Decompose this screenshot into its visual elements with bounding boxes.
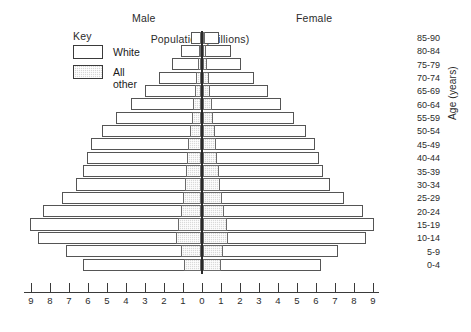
bar-male-total xyxy=(159,72,201,84)
bar-male-all-other xyxy=(183,192,201,204)
x-axis-tick-label: 9 xyxy=(370,295,375,306)
bar-female-total xyxy=(203,205,363,217)
bar-female-all-other xyxy=(203,192,222,204)
bar-female-all-other xyxy=(203,125,215,137)
bar-female-total xyxy=(203,125,306,137)
bar-male-all-other xyxy=(190,125,201,137)
age-label: 45-49 xyxy=(417,140,440,150)
age-label: 70-74 xyxy=(417,73,440,83)
age-label: 60-64 xyxy=(417,100,440,110)
bar-female-all-other xyxy=(203,259,221,271)
x-axis-tick xyxy=(183,283,184,292)
age-label: 20-24 xyxy=(417,207,440,217)
female-column-heading: Female xyxy=(296,12,332,24)
bar-male-total xyxy=(43,205,201,217)
bar-male-total xyxy=(87,152,201,164)
bar-female-total xyxy=(203,218,374,230)
x-axis-tick xyxy=(335,283,336,292)
bar-female-all-other xyxy=(203,98,212,110)
x-axis-tick-label: 1 xyxy=(180,295,185,306)
age-label: 30-34 xyxy=(417,180,440,190)
bar-female-total xyxy=(203,112,294,124)
x-axis-line xyxy=(24,292,379,293)
bar-female-all-other xyxy=(203,245,223,257)
bar-male-total xyxy=(76,178,201,190)
bar-female-all-other xyxy=(203,112,213,124)
bar-male-all-other xyxy=(184,259,201,271)
x-axis-tick-label: 6 xyxy=(313,295,318,306)
bar-male-total xyxy=(83,165,201,177)
x-axis-tick xyxy=(107,283,108,292)
bar-male-total xyxy=(172,58,201,70)
bar-male-all-other xyxy=(176,232,201,244)
x-axis-tick xyxy=(69,283,70,292)
age-label: 35-39 xyxy=(417,167,440,177)
bar-male-all-other xyxy=(186,165,201,177)
x-axis-tick-label: 4 xyxy=(275,295,280,306)
age-label: 40-44 xyxy=(417,153,440,163)
x-axis-tick xyxy=(145,283,146,292)
age-label-column: 85-9080-8475-7970-7465-6960-6455-5950-54… xyxy=(398,31,446,274)
x-axis-tick xyxy=(354,283,355,292)
age-label: 80-84 xyxy=(417,46,440,56)
bar-female-total xyxy=(203,165,323,177)
bar-male-all-other xyxy=(187,152,201,164)
bar-male-total xyxy=(116,112,202,124)
x-axis-tick-label: 2 xyxy=(237,295,242,306)
x-axis-tick xyxy=(373,283,374,292)
bar-female-total xyxy=(203,58,241,70)
bar-female-total xyxy=(203,72,254,84)
bar-male-all-other xyxy=(178,218,201,230)
bar-female-all-other xyxy=(203,45,206,57)
bar-male-all-other xyxy=(185,178,201,190)
bar-male-all-other xyxy=(181,205,201,217)
bar-female-all-other xyxy=(203,32,205,44)
male-column-heading: Male xyxy=(132,12,156,24)
population-pyramid-chart: Male Female Key White All other 85-9080-… xyxy=(0,0,471,332)
x-axis-tick-label: 0 xyxy=(199,295,204,306)
age-label: 5-9 xyxy=(427,247,440,257)
x-axis-tick xyxy=(297,283,298,292)
age-label: 65-69 xyxy=(417,86,440,96)
bar-male-total xyxy=(102,125,201,137)
bar-female-total xyxy=(203,192,344,204)
x-axis-tick-label: 3 xyxy=(256,295,261,306)
bar-female-all-other xyxy=(203,218,227,230)
bar-male-all-other xyxy=(188,138,201,150)
bar-female-total xyxy=(203,152,319,164)
age-label: 50-54 xyxy=(417,126,440,136)
age-label: 15-19 xyxy=(417,220,440,230)
x-axis-tick xyxy=(240,283,241,292)
bar-male-total xyxy=(145,85,201,97)
age-label: 25-29 xyxy=(417,193,440,203)
bar-female-total xyxy=(203,32,219,44)
bar-female-total xyxy=(203,178,330,190)
x-axis-tick-label: 4 xyxy=(123,295,128,306)
x-axis-tick xyxy=(31,283,32,292)
x-axis-tick-label: 2 xyxy=(161,295,166,306)
age-label: 55-59 xyxy=(417,113,440,123)
x-axis-tick-label: 7 xyxy=(66,295,71,306)
bar-female-all-other xyxy=(203,178,220,190)
bar-female-all-other xyxy=(203,232,228,244)
bar-female-all-other xyxy=(203,152,217,164)
center-axis-line xyxy=(201,31,203,274)
bar-female-all-other xyxy=(203,58,207,70)
x-axis: 9876543210123456789 xyxy=(0,281,471,321)
x-axis-tick-label: 6 xyxy=(85,295,90,306)
bar-female-all-other xyxy=(203,85,210,97)
x-axis-tick xyxy=(316,283,317,292)
x-axis-tick-label: 8 xyxy=(351,295,356,306)
bar-male-all-other xyxy=(193,98,201,110)
x-axis-tick-label: 3 xyxy=(142,295,147,306)
bar-male-total xyxy=(30,218,201,230)
x-axis-tick-label: 1 xyxy=(218,295,223,306)
x-axis-tick xyxy=(202,283,203,292)
y-axis-title: Age (years) xyxy=(447,66,458,120)
bar-male-total xyxy=(131,98,201,110)
x-axis-tick xyxy=(278,283,279,292)
age-label: 85-90 xyxy=(417,33,440,43)
x-axis-tick xyxy=(259,283,260,292)
x-axis-tick xyxy=(50,283,51,292)
x-axis-tick xyxy=(126,283,127,292)
